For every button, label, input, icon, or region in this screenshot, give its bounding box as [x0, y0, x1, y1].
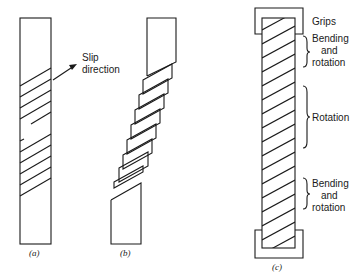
top-region-line1: Bending: [312, 33, 349, 44]
top-region-line3: rotation: [312, 57, 345, 68]
panel-b: (b): [111, 18, 176, 258]
bottom-region-line3: rotation: [312, 202, 345, 213]
caption-b: (b): [120, 248, 131, 258]
slip-lines-c: [262, 12, 295, 254]
top-region-line2: and: [321, 45, 338, 56]
slip-label-line2: direction: [82, 64, 120, 75]
slip-lines-a: [20, 68, 51, 196]
crystal-bar-a: [20, 18, 51, 244]
bottom-block-b: [111, 183, 141, 244]
arrow-icon: [53, 64, 77, 80]
brace-bottom: [303, 178, 310, 209]
slip-label-line1: Slip: [82, 52, 99, 63]
sheared-slabs-b: [114, 64, 172, 188]
bottom-region-line1: Bending: [312, 178, 349, 189]
grips-label: Grips: [312, 16, 336, 27]
slip-diagram: Slip direction (a) (b): [0, 0, 362, 276]
panel-a: Slip direction (a): [20, 18, 120, 258]
caption-c: (c): [272, 262, 282, 272]
bottom-region-line2: and: [321, 190, 338, 201]
panel-c: Grips Bending and rotation Rotation Bend…: [255, 8, 349, 272]
middle-region-label: Rotation: [312, 112, 349, 123]
brace-middle: [303, 86, 310, 148]
brace-top: [303, 36, 310, 67]
caption-a: (a): [29, 248, 40, 258]
